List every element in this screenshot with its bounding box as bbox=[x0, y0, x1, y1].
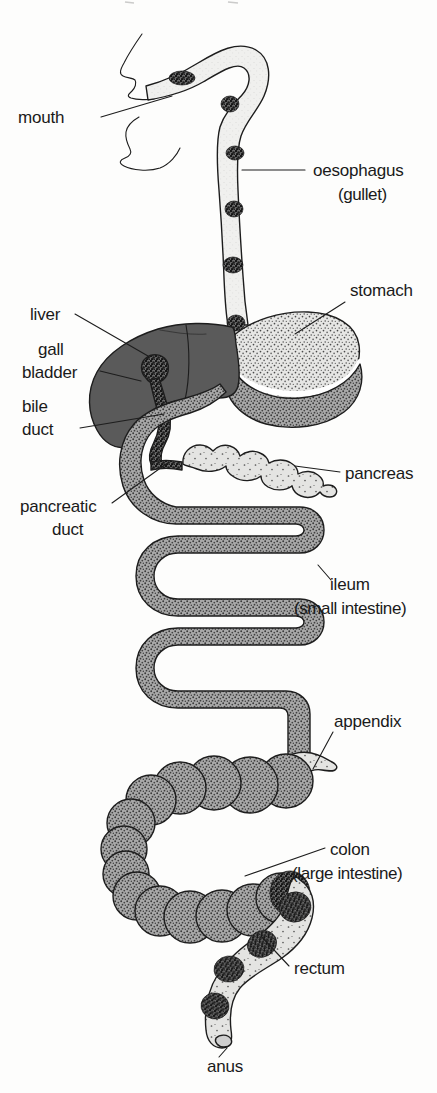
oesophagus bbox=[146, 46, 269, 331]
label-mouth: mouth bbox=[18, 108, 64, 127]
label-gall-bladder-1: gall bbox=[38, 340, 64, 359]
leader-pancreas bbox=[295, 466, 340, 472]
stomach bbox=[226, 312, 362, 427]
label-ileum: ileum bbox=[330, 575, 370, 594]
label-bile-duct-2: duct bbox=[22, 420, 54, 439]
scan-artifact bbox=[125, 2, 238, 3]
label-pancreas: pancreas bbox=[345, 464, 413, 483]
anus bbox=[215, 1035, 231, 1047]
label-oesophagus-sub: (gullet) bbox=[338, 185, 387, 204]
ileum bbox=[120, 384, 324, 772]
label-pancreatic-duct-2: duct bbox=[52, 520, 84, 539]
label-pancreatic-duct-1: pancreatic bbox=[20, 497, 97, 516]
leader-liver bbox=[75, 314, 148, 356]
label-colon: colon bbox=[330, 840, 370, 859]
leader-anus bbox=[219, 1048, 227, 1057]
label-appendix: appendix bbox=[334, 712, 402, 731]
digestive-system-figure: mouth oesophagus (gullet) stomach liver … bbox=[0, 0, 437, 1093]
label-bile-duct-1: bile bbox=[22, 397, 48, 416]
label-oesophagus: oesophagus bbox=[313, 161, 404, 180]
label-gall-bladder-2: bladder bbox=[22, 363, 78, 382]
label-stomach: stomach bbox=[350, 281, 413, 300]
label-rectum: rectum bbox=[294, 959, 345, 978]
pancreas bbox=[183, 445, 337, 497]
label-liver: liver bbox=[30, 305, 61, 324]
label-colon-sub: (large intestine) bbox=[292, 864, 402, 883]
label-anus: anus bbox=[207, 1057, 243, 1076]
pancreatic-duct bbox=[151, 461, 182, 471]
label-ileum-sub: (small intestine) bbox=[294, 599, 406, 618]
